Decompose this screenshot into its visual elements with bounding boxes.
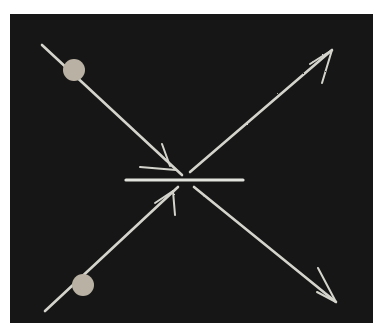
incoming-track-b (45, 187, 178, 311)
collision-diagram (0, 0, 383, 332)
outgoing-track-down-right (194, 187, 336, 302)
particle-a-dot (63, 59, 85, 81)
arrowhead-b-icon (155, 191, 175, 215)
outgoing-track-up-right (190, 50, 332, 172)
incoming-track-a (42, 45, 182, 175)
arrowhead-a-icon (140, 144, 176, 170)
particle-b-dot (72, 274, 94, 296)
arrowhead-down-right-icon (317, 268, 336, 302)
